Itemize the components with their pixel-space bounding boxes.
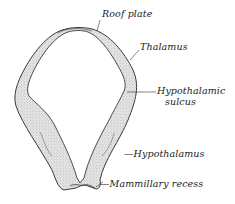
label-roof-plate: Roof plate (102, 9, 152, 19)
label-mammillary-recess: —Mammillary recess (100, 179, 203, 189)
leader-roof-plate (97, 20, 100, 31)
diencephalon-diagram: Roof plate Thalamus Hypothalamic sulcus … (0, 0, 235, 204)
label-hypothalamic-sulcus-line2: sulcus (165, 97, 196, 107)
label-hypothalamus: —Hypothalamus (124, 149, 205, 159)
label-thalamus: Thalamus (140, 42, 188, 52)
diagram-drawing (0, 0, 235, 204)
label-hypothalamic-sulcus-line1: Hypothalamic (157, 86, 225, 96)
leader-thalamus (130, 50, 139, 60)
